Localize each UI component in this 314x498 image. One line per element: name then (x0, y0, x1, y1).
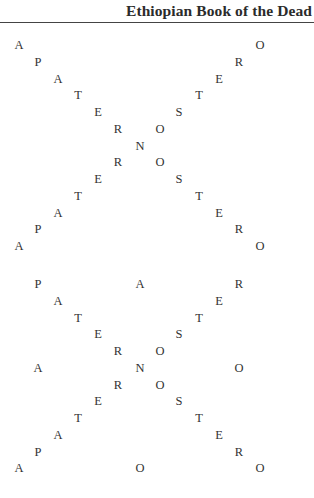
cross-letter: R (231, 222, 247, 236)
cross-letter: A (11, 239, 27, 253)
cross-letter: P (30, 445, 46, 459)
cross-letter: N (132, 361, 148, 375)
cross-letter: A (50, 294, 66, 308)
cross-letter: A (11, 461, 27, 475)
cross-letter: T (191, 411, 207, 425)
cross-letter: R (231, 277, 247, 291)
cross-letter: P (30, 55, 46, 69)
cross-letter: T (70, 189, 86, 203)
cross-letter: O (152, 155, 168, 169)
cross-letter: E (211, 206, 227, 220)
cross-letter: R (110, 155, 126, 169)
cross-letter: A (132, 277, 148, 291)
cross-letter: O (152, 122, 168, 136)
cross-letter: A (50, 206, 66, 220)
cross-letter: A (30, 361, 46, 375)
cross-letter: O (252, 38, 268, 52)
cross-letter: R (231, 445, 247, 459)
cross-letter: S (171, 327, 187, 341)
cross-letter: E (90, 172, 106, 186)
cross-letter: E (211, 428, 227, 442)
cross-letter: P (30, 277, 46, 291)
cross-letter: S (171, 394, 187, 408)
cross-letter: T (191, 311, 207, 325)
cross-letter: O (252, 461, 268, 475)
cross-letter: O (231, 361, 247, 375)
cross-letter: N (132, 139, 148, 153)
cross-letter: O (252, 239, 268, 253)
cross-letter: T (191, 88, 207, 102)
cross-letter: T (191, 189, 207, 203)
running-title: Ethiopian Book of the Dead (126, 2, 312, 20)
cross-letter: R (110, 122, 126, 136)
cross-letter: A (11, 38, 27, 52)
cross-letter: T (70, 88, 86, 102)
cross-letter: S (171, 172, 187, 186)
cross-letter: E (90, 394, 106, 408)
cross-letter: P (30, 222, 46, 236)
cross-letter: R (110, 378, 126, 392)
cross-letter: R (231, 55, 247, 69)
cross-letter: T (70, 311, 86, 325)
cross-letter: S (171, 105, 187, 119)
cross-letter: E (211, 72, 227, 86)
cross-letter: E (211, 294, 227, 308)
header-rule (0, 22, 314, 23)
cross-letter: O (132, 461, 148, 475)
cross-letter: A (50, 72, 66, 86)
cross-letter: A (50, 428, 66, 442)
cross-letter: E (90, 327, 106, 341)
cross-letter: R (110, 344, 126, 358)
cross-letter: O (152, 344, 168, 358)
cross-letter: E (90, 105, 106, 119)
cross-letter: T (70, 411, 86, 425)
cross-letter: O (152, 378, 168, 392)
